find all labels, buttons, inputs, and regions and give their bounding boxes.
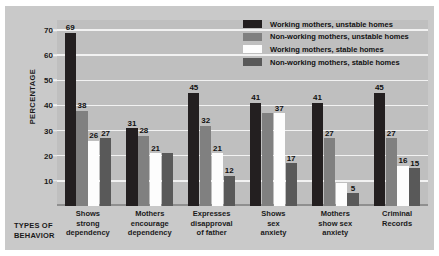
- bar-value-label: 12: [225, 166, 234, 175]
- category-label: Mothersencouragedependency: [119, 209, 181, 238]
- legend-item: Working mothers, stable homes: [243, 43, 409, 56]
- bar-group: 69382627: [57, 20, 119, 206]
- y-tick-label: 60: [44, 51, 53, 60]
- bar-value-label: 15: [410, 159, 419, 168]
- bar: 27: [100, 138, 111, 206]
- bar: 15: [409, 168, 420, 206]
- bar-value-label: 41: [251, 93, 260, 102]
- category-label: Expressesdisapprovalof father: [181, 209, 243, 238]
- bar: [336, 183, 347, 206]
- bar: 38: [76, 111, 87, 207]
- legend-swatch: [243, 45, 262, 53]
- category-label-line: sex: [243, 219, 305, 229]
- legend-swatch: [243, 33, 262, 41]
- bar-value-label: 28: [139, 126, 148, 135]
- bar-value-label: 32: [201, 116, 210, 125]
- legend-label: Non-working mothers, unstable homes: [270, 32, 409, 41]
- bar: 26: [88, 141, 99, 206]
- legend-label: Non-working mothers, stable homes: [270, 58, 400, 67]
- category-label-line: Shows: [57, 209, 119, 219]
- bar: 45: [188, 93, 199, 206]
- legend-item: Working mothers, unstable homes: [243, 18, 409, 31]
- bar-value-label: 16: [399, 156, 408, 165]
- bar: [162, 153, 173, 206]
- category-label-line: disapproval: [181, 219, 243, 229]
- legend-item: Non-working mothers, unstable homes: [243, 31, 409, 44]
- category-label-line: dependency: [119, 228, 181, 238]
- legend-swatch: [243, 20, 262, 28]
- category-label-row: ShowsstrongdependencyMothersencouragedep…: [57, 209, 428, 256]
- bar: 45: [374, 93, 385, 206]
- bar-value-label: 45: [189, 83, 198, 92]
- category-label-line: encourage: [119, 219, 181, 229]
- bar: 28: [138, 136, 149, 206]
- bar-value-label: 21: [151, 144, 160, 153]
- bar-value-label: 31: [128, 119, 137, 128]
- category-label-line: anxiety: [243, 228, 305, 238]
- y-tick-label: 30: [44, 126, 53, 135]
- legend-item: Non-working mothers, stable homes: [243, 56, 409, 69]
- chart-legend: Working mothers, unstable homesNon-worki…: [243, 18, 409, 68]
- category-label-line: show sex: [304, 219, 366, 229]
- category-label-line: Mothers: [304, 209, 366, 219]
- bar: 27: [386, 138, 397, 206]
- bar: 16: [397, 166, 408, 206]
- bar-value-label: 69: [66, 23, 75, 32]
- legend-swatch: [243, 58, 262, 66]
- y-tick-label: 50: [44, 76, 53, 85]
- bar: 21: [212, 153, 223, 206]
- bar: 17: [286, 163, 297, 206]
- bar-value-label: 27: [325, 129, 334, 138]
- bar-value-label: 27: [101, 129, 110, 138]
- bar: 32: [200, 126, 211, 206]
- category-label-line: dependency: [57, 228, 119, 238]
- y-axis-title: PERCENTAGE: [28, 42, 37, 152]
- bar-group: 45322112: [181, 20, 243, 206]
- y-tick-label: 40: [44, 101, 53, 110]
- chart-screenshot: PERCENTAGE TYPES OF BEHAVIOR 10203040506…: [0, 0, 439, 256]
- bar: 41: [312, 103, 323, 206]
- chart-card: PERCENTAGE TYPES OF BEHAVIOR 10203040506…: [5, 6, 434, 250]
- bar: 37: [274, 113, 285, 206]
- category-label: CriminalRecords: [366, 209, 428, 228]
- bar: 41: [250, 103, 261, 206]
- category-label-line: Expresses: [181, 209, 243, 219]
- bar-value-label: 45: [375, 83, 384, 92]
- bar-value-label: 17: [287, 154, 296, 163]
- bar-value-label: 41: [313, 93, 322, 102]
- category-label-line: Shows: [243, 209, 305, 219]
- bar: [262, 113, 273, 206]
- y-tick-label: 10: [44, 176, 53, 185]
- bar: 21: [150, 153, 161, 206]
- bar: 5: [347, 193, 358, 206]
- legend-label: Working mothers, stable homes: [270, 45, 384, 54]
- bar-value-label: 5: [351, 184, 355, 193]
- bar-value-label: 37: [275, 104, 284, 113]
- category-label-line: anxiety: [304, 228, 366, 238]
- bar: 31: [126, 128, 137, 206]
- legend-label: Working mothers, unstable homes: [270, 20, 393, 29]
- category-label-line: Records: [366, 219, 428, 229]
- bar: 69: [65, 33, 76, 206]
- y-tick-label: 20: [44, 151, 53, 160]
- bar-value-label: 38: [78, 101, 87, 110]
- bar: 12: [224, 176, 235, 206]
- bar-value-label: 27: [387, 129, 396, 138]
- y-tick-label: 70: [44, 26, 53, 35]
- category-label-line: strong: [57, 219, 119, 229]
- category-label-line: Mothers: [119, 209, 181, 219]
- bar-group: 312821: [119, 20, 181, 206]
- category-label: Showssexanxiety: [243, 209, 305, 238]
- bar-value-label: 26: [89, 131, 98, 140]
- category-label-line: of father: [181, 228, 243, 238]
- category-label: Mothersshow sexanxiety: [304, 209, 366, 238]
- category-label: Showsstrongdependency: [57, 209, 119, 238]
- bar: 27: [324, 138, 335, 206]
- bar-value-label: 21: [213, 144, 222, 153]
- category-label-line: Criminal: [366, 209, 428, 219]
